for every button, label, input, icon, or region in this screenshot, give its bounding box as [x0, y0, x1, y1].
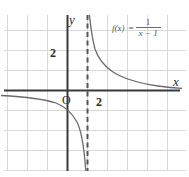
x-tick-label-2: 2 [96, 96, 102, 108]
horizontal-gridlines [4, 31, 186, 171]
origin-label: O [62, 94, 71, 106]
graph-figure: y x O 2 2 f(x) = 1 x − 1 [0, 0, 189, 177]
equals-sign: = [129, 23, 134, 33]
y-tick-label-2: 2 [50, 47, 56, 59]
y-axis-label: y [69, 13, 75, 26]
function-annotation: f(x) = 1 x − 1 [112, 17, 161, 38]
fraction-denominator: x − 1 [136, 28, 161, 38]
x-axis-label: x [173, 75, 179, 88]
fraction-numerator: 1 [143, 17, 154, 27]
curve-left-branch [1, 96, 86, 172]
function-name: f(x) [112, 23, 125, 33]
fraction: 1 x − 1 [136, 17, 161, 38]
